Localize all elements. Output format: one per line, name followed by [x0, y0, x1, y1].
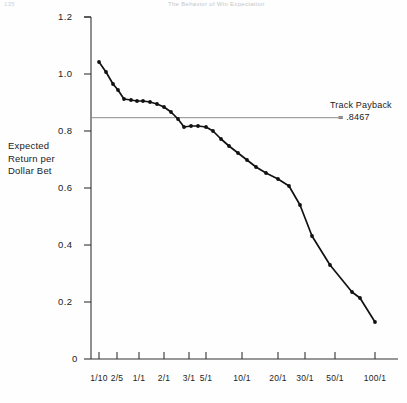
y-axis-title: Expected Return per Dollar Bet	[8, 140, 80, 178]
x-axis-label-50-1: 50/1	[315, 373, 355, 383]
data-point-20	[236, 151, 240, 155]
y-axis-label-0-4: 0.4	[58, 239, 72, 250]
x-axis-label-100-1: 100/1	[355, 373, 395, 383]
axes-group	[84, 17, 398, 359]
y-tick-group	[84, 17, 91, 359]
y-axis-label-0-8: 0.8	[58, 125, 72, 136]
x-axis-label-5-1: 5/1	[186, 373, 226, 383]
data-point-25	[287, 184, 291, 188]
data-point-5	[129, 98, 133, 102]
data-point-30	[358, 296, 362, 300]
data-point-16	[204, 125, 208, 129]
data-point-24	[276, 177, 280, 181]
y-axis-label-0: 0	[72, 353, 78, 364]
plot-area	[0, 0, 407, 403]
y-axis-label-0-6: 0.6	[58, 182, 72, 193]
data-point-27	[310, 234, 314, 238]
data-point-15	[196, 124, 200, 128]
data-point-10	[162, 105, 166, 109]
y-axis-title-line2: Return per	[8, 153, 80, 166]
data-point-2	[111, 82, 115, 86]
data-point-21	[245, 158, 249, 162]
data-point-26	[298, 203, 302, 207]
data-point-0	[97, 60, 101, 64]
data-point-3	[116, 88, 120, 92]
data-point-7	[141, 99, 145, 103]
annotation-line1: Track Payback	[330, 100, 405, 112]
data-point-8	[148, 100, 152, 104]
data-point-29	[350, 290, 354, 294]
track-payback-annotation: Track Payback = .8467	[330, 100, 405, 123]
data-point-22	[254, 165, 258, 169]
data-point-1	[104, 70, 108, 74]
data-point-17	[211, 129, 215, 133]
data-point-18	[219, 137, 223, 141]
y-axis-label-1-0: 1.0	[58, 68, 72, 79]
y-axis-label-0-2: 0.2	[58, 296, 72, 307]
annotation-line2: = .8467	[330, 112, 405, 124]
data-point-6	[135, 99, 139, 103]
data-point-11	[169, 110, 173, 114]
data-point-12	[176, 117, 180, 121]
y-axis-title-line1: Expected	[8, 140, 80, 153]
data-point-28	[328, 263, 332, 267]
data-point-13	[182, 125, 186, 129]
data-point-19	[227, 144, 231, 148]
y-axis-title-line3: Dollar Bet	[8, 165, 80, 178]
chart-page: 135 The Behavior of Win Expectation 00.2…	[0, 0, 407, 403]
y-axis-label-1-2: 1.2	[58, 11, 72, 22]
x-axis-label-10-1: 10/1	[222, 373, 262, 383]
data-point-4	[122, 97, 126, 101]
data-point-31	[373, 320, 377, 324]
x-tick-group	[99, 352, 375, 359]
data-point-14	[189, 124, 193, 128]
data-point-9	[155, 102, 159, 106]
data-point-23	[264, 171, 268, 175]
chart-svg	[0, 0, 407, 403]
